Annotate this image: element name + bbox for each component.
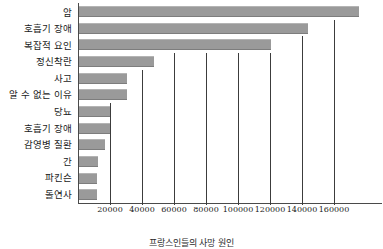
bar xyxy=(79,56,154,67)
bar-row xyxy=(79,3,382,20)
x-tick-mark xyxy=(110,202,111,205)
x-tick-mark xyxy=(174,202,175,205)
bar-row xyxy=(79,86,382,103)
category-label: 당뇨 xyxy=(0,103,75,120)
bar-row xyxy=(79,53,382,70)
x-tick-label: 160000 xyxy=(319,205,350,214)
x-tick-mark xyxy=(334,202,335,205)
x-tick-mark xyxy=(270,202,271,205)
bar-row xyxy=(79,120,382,137)
category-label: 돌연사 xyxy=(0,186,75,203)
bar xyxy=(79,39,271,50)
x-tick-mark xyxy=(206,202,207,205)
category-label: 호흡기 장애 xyxy=(0,21,75,38)
category-label: 암 xyxy=(0,4,75,21)
category-axis-labels: 암호흡기 장애복잡적 요인정신착란사고알 수 없는 이유당뇨호흡기 장애감영병 … xyxy=(0,4,75,203)
x-axis-line xyxy=(78,203,382,204)
bar xyxy=(79,139,105,150)
bar-row xyxy=(79,170,382,187)
bar xyxy=(79,123,110,134)
bar-row xyxy=(79,153,382,170)
x-tick-mark xyxy=(302,202,303,205)
bar xyxy=(79,189,97,200)
value-axis-tick-labels: 2000040000600008000010000012000014000016… xyxy=(78,205,382,219)
x-tick-label: 20000 xyxy=(97,205,122,214)
x-tick-label: 140000 xyxy=(287,205,318,214)
x-tick-mark xyxy=(142,202,143,205)
category-label: 알 수 없는 이유 xyxy=(0,87,75,104)
bar-series xyxy=(79,3,382,203)
bar xyxy=(79,106,110,117)
bar-row xyxy=(79,103,382,120)
category-label: 정신착란 xyxy=(0,54,75,71)
x-tick-label: 100000 xyxy=(223,205,254,214)
x-tick-label: 40000 xyxy=(129,205,154,214)
bar-chart: 암호흡기 장애복잡적 요인정신착란사고알 수 없는 이유당뇨호흡기 장애감영병 … xyxy=(0,0,383,249)
bar-row xyxy=(79,20,382,37)
bar-row xyxy=(79,136,382,153)
x-tick-label: 60000 xyxy=(161,205,186,214)
x-tick-label: 120000 xyxy=(255,205,286,214)
bar xyxy=(79,6,359,17)
x-tick-label: 80000 xyxy=(193,205,218,214)
chart-caption: 프랑스인들의 사망 원인 xyxy=(0,236,383,249)
plot-area xyxy=(78,3,382,204)
bar xyxy=(79,73,127,84)
bar xyxy=(79,89,127,100)
category-label: 호흡기 장애 xyxy=(0,120,75,137)
bar-row xyxy=(79,186,382,203)
bar-row xyxy=(79,70,382,87)
category-label: 파킨슨 xyxy=(0,170,75,187)
category-label: 간 xyxy=(0,153,75,170)
category-label: 감영병 질환 xyxy=(0,137,75,154)
bar-row xyxy=(79,36,382,53)
bar xyxy=(79,156,98,167)
x-tick-mark xyxy=(238,202,239,205)
category-label: 사고 xyxy=(0,70,75,87)
bar xyxy=(79,173,97,184)
category-label: 복잡적 요인 xyxy=(0,37,75,54)
bar xyxy=(79,23,308,34)
